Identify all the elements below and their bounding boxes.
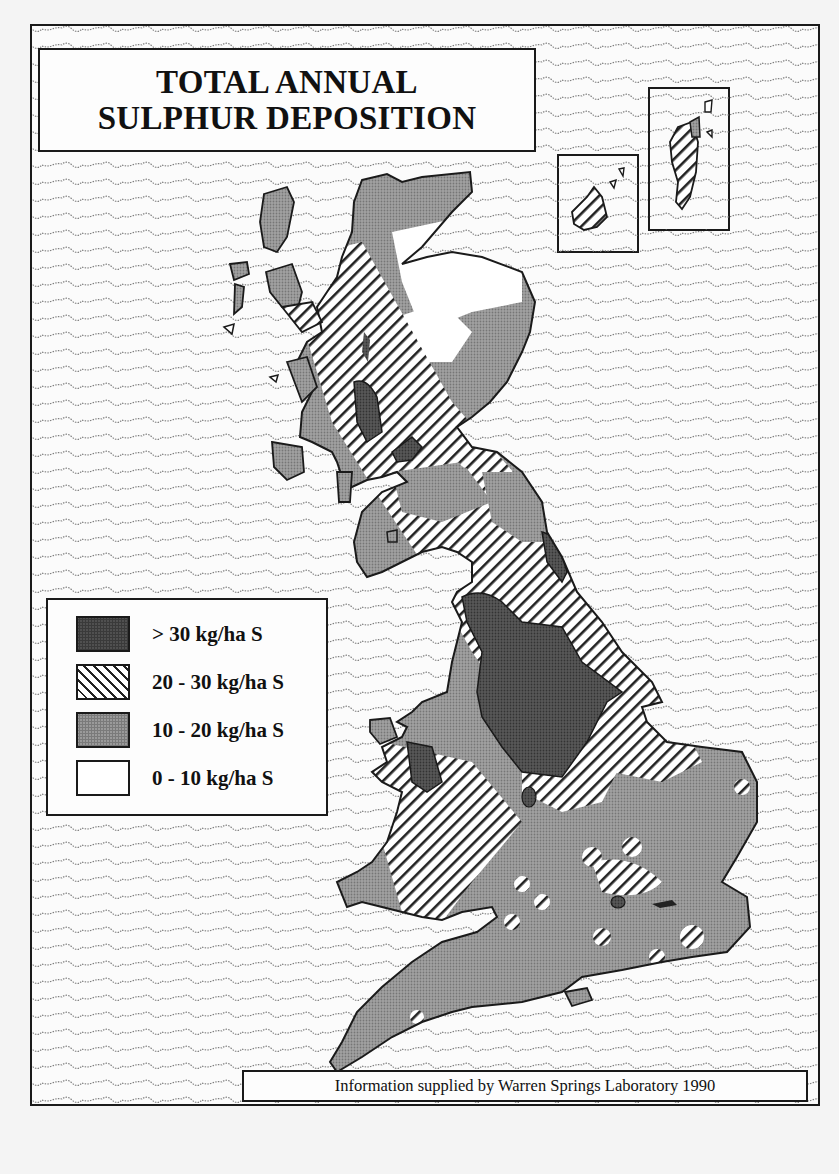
title-line-2: SULPHUR DEPOSITION xyxy=(98,100,477,136)
grey-stipple-swatch-icon xyxy=(76,712,130,748)
legend-item-10-20: 10 - 20 kg/ha S xyxy=(76,710,284,750)
hatch-swatch-icon xyxy=(76,664,130,700)
map-frame xyxy=(30,24,820,1106)
legend-item-0-10: 0 - 10 kg/ha S xyxy=(76,758,273,798)
sulphur-deposition-map xyxy=(32,26,818,1104)
credit-note: Information supplied by Warren Springs L… xyxy=(242,1070,808,1102)
legend: > 30 kg/ha S 20 - 30 kg/ha S 10 - 20 kg/… xyxy=(46,598,328,816)
map-title: TOTAL ANNUAL SULPHUR DEPOSITION xyxy=(38,48,536,152)
credit-text: Information supplied by Warren Springs L… xyxy=(335,1076,716,1096)
legend-item-20-30: 20 - 30 kg/ha S xyxy=(76,662,284,702)
dark-stipple-swatch-icon xyxy=(76,616,130,652)
title-line-1: TOTAL ANNUAL xyxy=(156,64,418,100)
legend-item-over-30: > 30 kg/ha S xyxy=(76,614,263,654)
white-swatch-icon xyxy=(76,760,130,796)
